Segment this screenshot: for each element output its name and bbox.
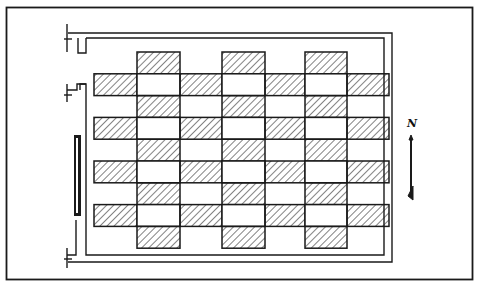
open-plot — [222, 74, 265, 96]
open-plot — [137, 205, 180, 227]
open-plot — [305, 205, 347, 227]
hatched-plot — [265, 74, 305, 96]
hatched-plot — [137, 96, 180, 118]
hatched-plot — [222, 52, 265, 74]
open-plot — [305, 117, 347, 139]
open-plot — [222, 161, 265, 183]
open-plot — [137, 74, 180, 96]
north-arrow-icon — [408, 135, 413, 200]
hatched-plot — [137, 139, 180, 161]
hatched-plot — [180, 161, 222, 183]
hatched-plot — [347, 205, 389, 227]
hatched-plot — [265, 161, 305, 183]
hatched-plot — [305, 226, 347, 248]
open-plot — [137, 161, 180, 183]
hatched-plot — [180, 205, 222, 227]
hatched-plot — [347, 117, 389, 139]
hatched-plot — [137, 52, 180, 74]
hatched-plot — [94, 205, 137, 227]
north-label: N — [407, 117, 417, 130]
open-plot — [137, 117, 180, 139]
open-plot — [305, 74, 347, 96]
hatched-plot — [222, 96, 265, 118]
hatched-plot — [265, 117, 305, 139]
hatched-plot — [347, 161, 389, 183]
hatched-plot — [305, 139, 347, 161]
hatched-plot — [94, 117, 137, 139]
hatched-plot — [94, 74, 137, 96]
open-plot — [222, 117, 265, 139]
hatched-plot — [94, 161, 137, 183]
hatched-plot — [180, 117, 222, 139]
hatched-plot — [137, 226, 180, 248]
open-plot — [305, 161, 347, 183]
open-plot — [222, 205, 265, 227]
hatched-plot — [265, 205, 305, 227]
hatched-plot — [222, 226, 265, 248]
hatched-plot — [305, 183, 347, 205]
hatched-plot — [347, 74, 389, 96]
hatched-plot — [137, 183, 180, 205]
site-plan-diagram — [0, 0, 478, 286]
hatched-plot — [305, 96, 347, 118]
hatched-plot — [180, 74, 222, 96]
planting-grid — [94, 52, 389, 248]
hatched-plot — [222, 183, 265, 205]
hatched-plot — [222, 139, 265, 161]
hatched-plot — [305, 52, 347, 74]
